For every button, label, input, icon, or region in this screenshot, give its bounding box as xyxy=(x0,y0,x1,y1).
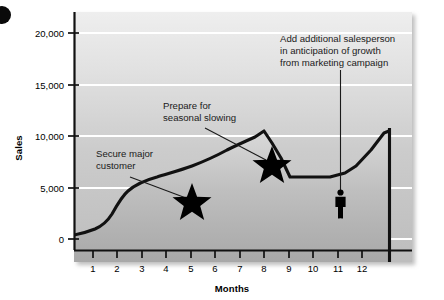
x-tick-label-6: 6 xyxy=(212,263,217,274)
x-tick-label-10: 10 xyxy=(308,263,319,274)
x-axis-title: Months xyxy=(215,283,249,294)
x-tick-label-12: 12 xyxy=(357,263,368,274)
x-tick-label-2: 2 xyxy=(114,263,119,274)
x-tick-label-9: 9 xyxy=(286,263,291,274)
x-tick-label-4: 4 xyxy=(163,263,168,274)
annotation-prepare-seasonal-slowing: Prepare for seasonal slowing xyxy=(163,100,236,124)
y-tick-label-20000: 20,000 xyxy=(20,28,64,39)
y-tick-label-15000: 15,000 xyxy=(20,80,64,91)
y-tick-label-10000: 10,000 xyxy=(20,131,64,142)
x-tick-label-11: 11 xyxy=(333,263,343,274)
y-tick-label-5000: 5,000 xyxy=(20,183,64,194)
y-tick-label-0: 0 xyxy=(20,234,64,245)
x-tick-label-5: 5 xyxy=(188,263,193,274)
x-tick-label-3: 3 xyxy=(139,263,144,274)
annotation-add-salesperson: Add additional salesperson in anticipati… xyxy=(280,33,395,70)
x-tick-label-7: 7 xyxy=(237,263,242,274)
x-tick-label-1: 1 xyxy=(90,263,95,274)
figure-root: Sales Months 0 5,000 10,000 15,000 20,00… xyxy=(0,0,444,300)
annotation-secure-major-customer: Secure major customer xyxy=(96,148,153,172)
x-tick-label-8: 8 xyxy=(261,263,266,274)
